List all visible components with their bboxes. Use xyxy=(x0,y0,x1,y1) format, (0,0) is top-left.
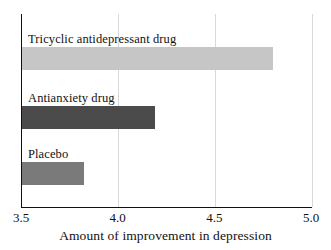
bar-1[interactable] xyxy=(22,106,155,129)
x-tick-label-1: 4.0 xyxy=(110,210,126,225)
x-tick-label-3: 5.0 xyxy=(303,210,319,225)
bar-group-0: Tricyclic antidepressant drug xyxy=(22,47,312,70)
bar-label-0: Tricyclic antidepressant drug xyxy=(28,32,176,46)
bar-group-1: Antianxiety drug xyxy=(22,106,312,129)
bar-group-2: Placebo xyxy=(22,162,312,185)
bar-chart: Tricyclic antidepressant drug Antianxiet… xyxy=(0,0,331,250)
plot-area: Tricyclic antidepressant drug Antianxiet… xyxy=(21,14,312,208)
bar-0[interactable] xyxy=(22,47,273,70)
bar-label-1: Antianxiety drug xyxy=(28,91,115,105)
bar-2[interactable] xyxy=(22,162,84,185)
x-axis-title: Amount of improvement in depression xyxy=(0,228,331,244)
x-tick-label-2: 4.5 xyxy=(206,210,222,225)
bar-label-2: Placebo xyxy=(28,147,68,161)
x-tick-label-0: 3.5 xyxy=(13,210,29,225)
